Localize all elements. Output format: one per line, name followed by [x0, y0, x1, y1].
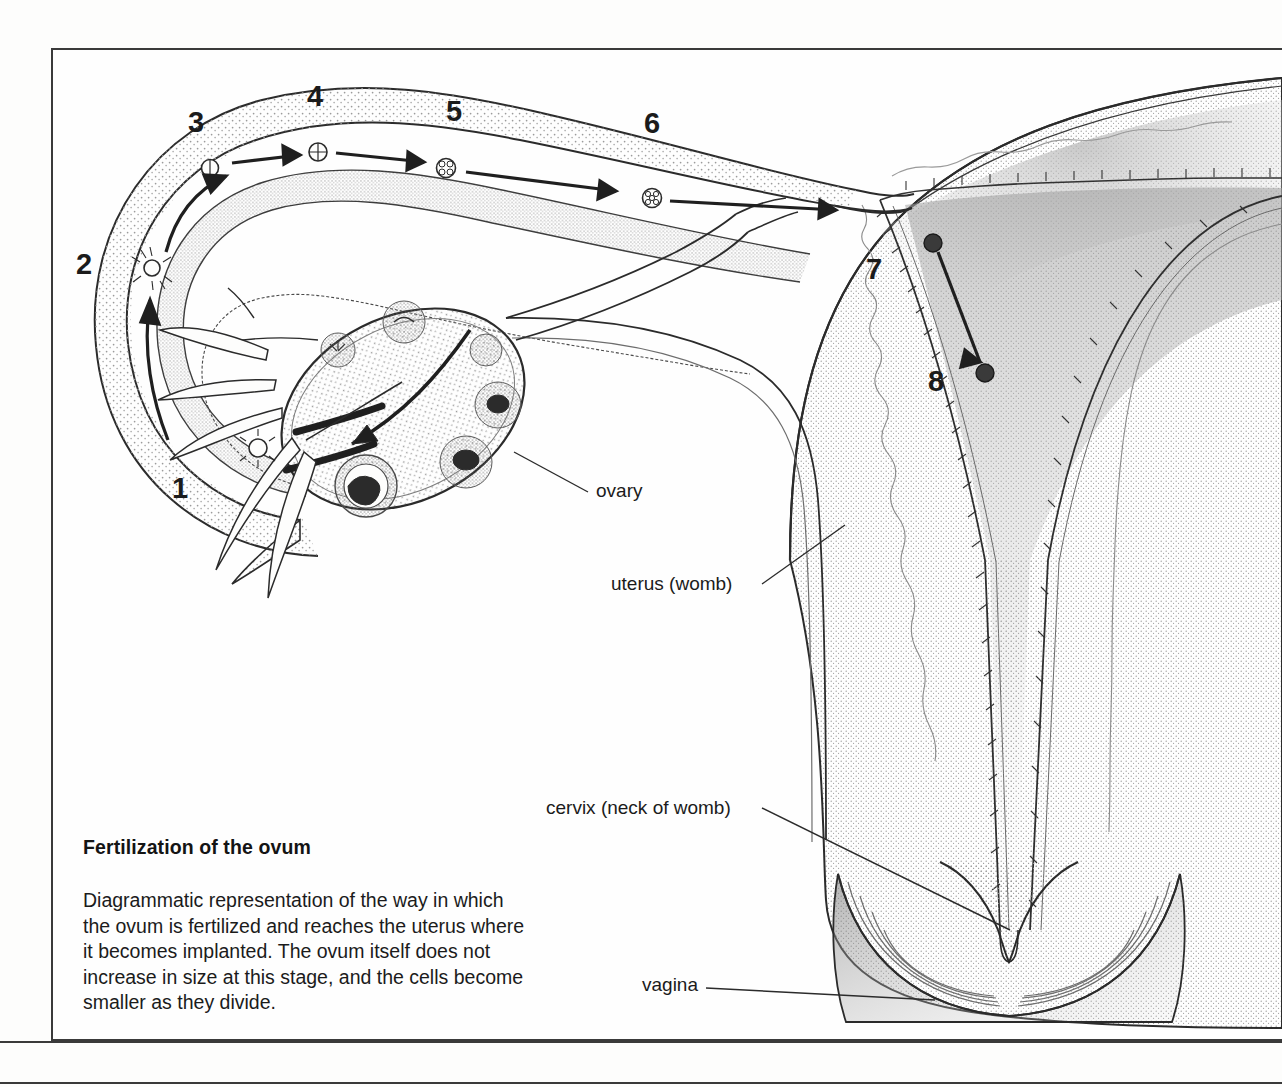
figure-caption: Diagrammatic representation of the way i…	[83, 888, 603, 1016]
stage-number-5: 5	[446, 97, 462, 126]
label-vagina: vagina	[642, 974, 698, 996]
fallopian-tube	[95, 88, 914, 556]
ovum-stage-8	[976, 364, 994, 382]
figure-plate: 1 2 3 4 5 6 7 8 ovary uterus (womb) cerv…	[0, 0, 1282, 1087]
stage-number-4: 4	[307, 82, 323, 111]
ovum-stage-6	[643, 189, 662, 208]
caption-line-1: Diagrammatic representation of the way i…	[83, 888, 603, 914]
caption-line-2: the ovum is fertilized and reaches the u…	[83, 914, 603, 940]
figure-title: Fertilization of the ovum	[83, 836, 311, 859]
leader-ovary	[514, 452, 588, 492]
stage-number-2: 2	[76, 250, 92, 279]
stage-number-3: 3	[188, 108, 204, 137]
ovum-stage-5	[437, 159, 456, 178]
stage-number-6: 6	[644, 109, 660, 138]
ovum-stage-7	[924, 234, 942, 252]
label-ovary: ovary	[596, 480, 642, 502]
stage-number-7: 7	[866, 255, 882, 284]
stage-number-8: 8	[928, 367, 944, 396]
ovum-stage-1	[249, 439, 267, 457]
label-cervix: cervix (neck of womb)	[546, 797, 731, 819]
stage-number-1: 1	[172, 474, 188, 503]
caption-line-3: it becomes implanted. The ovum itself do…	[83, 939, 603, 965]
caption-line-5: smaller as they divide.	[83, 990, 603, 1016]
broad-ligament	[506, 198, 826, 842]
label-uterus: uterus (womb)	[611, 573, 732, 595]
ovum-stage-2	[144, 260, 160, 276]
caption-line-4: increase in size at this stage, and the …	[83, 965, 603, 991]
